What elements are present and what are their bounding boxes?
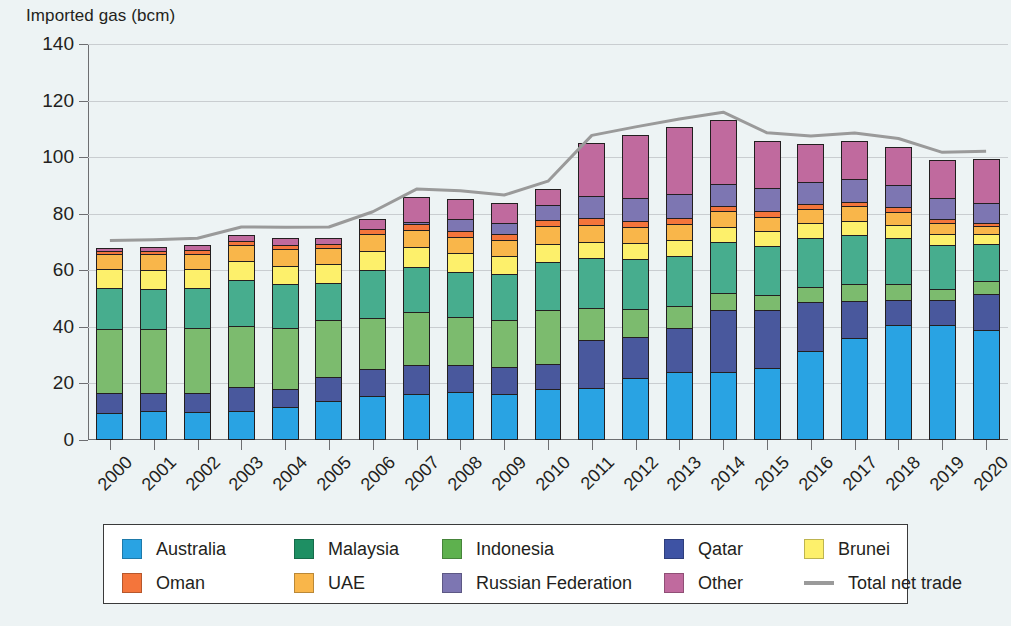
bar-segment — [622, 135, 649, 199]
bar-segment — [96, 413, 123, 440]
legend-item-oman[interactable]: Oman — [122, 573, 205, 594]
x-tick-mark — [592, 440, 593, 450]
bar-column[interactable] — [315, 238, 342, 440]
bar-segment — [754, 310, 781, 369]
legend-item-qatar[interactable]: Qatar — [664, 539, 743, 560]
legend-label: Oman — [156, 573, 205, 594]
x-tick-mark — [548, 440, 549, 450]
bar-column[interactable] — [929, 160, 956, 440]
y-tick-label: 0 — [63, 429, 74, 451]
bar-column[interactable] — [359, 219, 386, 440]
legend-item-brunei[interactable]: Brunei — [804, 539, 890, 560]
x-tick-mark — [460, 440, 461, 450]
bar-column[interactable] — [96, 248, 123, 440]
legend-item-total-net-trade[interactable]: Total net trade — [804, 573, 962, 594]
x-tick-label: 2017 — [838, 452, 881, 495]
legend-item-other[interactable]: Other — [664, 573, 743, 594]
bar-segment — [96, 269, 123, 289]
bar-column[interactable] — [578, 143, 605, 440]
legend-label: Total net trade — [848, 573, 962, 594]
bar-segment — [272, 389, 299, 409]
x-tick-label: 2005 — [313, 452, 356, 495]
bar-column[interactable] — [447, 199, 474, 440]
bar-segment — [403, 267, 430, 313]
bar-segment — [491, 256, 518, 276]
bar-segment — [622, 337, 649, 379]
bar-column[interactable] — [754, 141, 781, 440]
bar-segment — [666, 127, 693, 195]
x-tick-label: 2009 — [488, 452, 531, 495]
bar-column[interactable] — [535, 189, 562, 440]
legend-item-russian-federation[interactable]: Russian Federation — [442, 573, 632, 594]
x-tick-mark — [285, 440, 286, 450]
x-tick-mark — [767, 440, 768, 450]
bar-column[interactable] — [272, 238, 299, 440]
x-axis-ticks — [88, 440, 1008, 452]
bar-segment — [359, 318, 386, 371]
bar-segment — [622, 198, 649, 222]
x-tick-mark — [811, 440, 812, 450]
y-tick-mark — [79, 440, 88, 441]
legend-line-swatch — [804, 581, 834, 585]
bar-column[interactable] — [403, 197, 430, 440]
bar-segment — [184, 269, 211, 289]
legend-item-indonesia[interactable]: Indonesia — [442, 539, 554, 560]
bar-segment — [359, 234, 386, 252]
bar-column[interactable] — [885, 147, 912, 440]
bar-segment — [578, 340, 605, 389]
bar-segment — [666, 372, 693, 440]
x-tick-mark — [504, 440, 505, 450]
bar-column[interactable] — [710, 120, 737, 440]
bar-segment — [841, 221, 868, 236]
bar-segment — [622, 227, 649, 244]
bar-segment — [622, 378, 649, 441]
bar-column[interactable] — [184, 245, 211, 440]
bar-segment — [754, 368, 781, 440]
bar-segment — [535, 189, 562, 206]
bar-segment — [272, 266, 299, 286]
legend-item-uae[interactable]: UAE — [294, 573, 365, 594]
bar-segment — [535, 364, 562, 391]
bar-segment — [841, 206, 868, 221]
x-tick-label: 2019 — [926, 452, 969, 495]
legend-label: Indonesia — [476, 539, 554, 560]
bar-column[interactable] — [841, 141, 868, 440]
bar-segment — [403, 247, 430, 268]
bar-segment — [841, 284, 868, 302]
chart-legend: AustraliaMalaysiaIndonesiaQatarBrunei Om… — [103, 524, 908, 604]
x-axis-labels: 2000200120022003200420052006200720082009… — [88, 452, 1008, 510]
x-tick-label: 2011 — [576, 452, 618, 494]
bar-segment — [447, 317, 474, 366]
x-tick-label: 2015 — [751, 452, 794, 495]
bar-column[interactable] — [797, 144, 824, 440]
x-tick-mark — [417, 440, 418, 450]
bar-column[interactable] — [140, 247, 167, 440]
bar-segment — [710, 184, 737, 207]
bar-segment — [272, 328, 299, 390]
bar-segment — [666, 240, 693, 258]
bar-segment — [315, 377, 342, 402]
bar-segment — [228, 411, 255, 440]
bar-column[interactable] — [228, 235, 255, 440]
x-tick-label: 2020 — [970, 452, 1011, 495]
x-tick-mark — [329, 440, 330, 450]
bar-segment — [184, 288, 211, 329]
bar-segment — [797, 351, 824, 440]
y-tick-mark — [79, 44, 88, 45]
legend-item-australia[interactable]: Australia — [122, 539, 226, 560]
bar-segment — [973, 159, 1000, 203]
bar-segment — [973, 281, 1000, 295]
legend-item-malaysia[interactable]: Malaysia — [294, 539, 399, 560]
bar-column[interactable] — [622, 135, 649, 440]
legend-label: Qatar — [698, 539, 743, 560]
bar-segment — [403, 230, 430, 248]
bar-segment — [272, 284, 299, 329]
bar-column[interactable] — [973, 159, 1000, 440]
bar-column[interactable] — [491, 203, 518, 440]
bar-segment — [535, 310, 562, 365]
legend-label: Brunei — [838, 539, 890, 560]
bar-segment — [841, 338, 868, 440]
x-tick-label: 2016 — [795, 452, 838, 495]
x-tick-label: 2003 — [225, 452, 268, 495]
bar-column[interactable] — [666, 127, 693, 440]
